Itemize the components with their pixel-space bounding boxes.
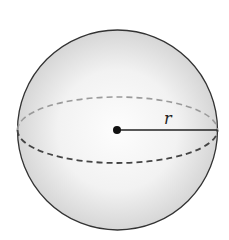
- sphere-diagram: r: [0, 0, 229, 240]
- radius-label: r: [164, 109, 173, 128]
- center-point: [113, 126, 121, 134]
